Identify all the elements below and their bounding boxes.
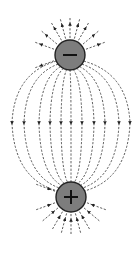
field-line <box>83 35 94 44</box>
connecting-field-lines <box>12 61 130 191</box>
field-line <box>35 42 41 44</box>
field-line <box>12 123 57 191</box>
field-line <box>84 208 89 212</box>
field-line <box>62 25 66 38</box>
field-line <box>99 42 105 44</box>
field-line <box>46 35 57 44</box>
field-line <box>94 31 99 35</box>
field-line <box>60 19 62 25</box>
field-line <box>50 123 64 184</box>
field-line <box>61 70 67 123</box>
field-line <box>60 212 63 217</box>
negative-charge <box>55 40 85 70</box>
field-line <box>93 205 106 210</box>
field-line <box>61 123 68 182</box>
field-line <box>77 219 81 233</box>
field-line <box>41 61 54 66</box>
field-line <box>24 64 58 123</box>
field-line <box>24 123 59 188</box>
field-line <box>49 203 55 205</box>
field-line <box>83 123 119 188</box>
field-line <box>41 44 54 49</box>
field-line <box>70 70 71 123</box>
field-line <box>35 66 41 68</box>
field-line <box>53 208 58 212</box>
field-line <box>87 203 93 205</box>
field-line <box>74 25 78 38</box>
field-line <box>86 23 89 28</box>
field-line <box>85 123 130 191</box>
field-line <box>83 217 90 229</box>
field-line <box>52 23 55 28</box>
field-line <box>53 217 60 229</box>
positive-charge <box>56 182 86 212</box>
field-line <box>78 19 80 25</box>
field-line <box>74 123 82 182</box>
electric-field-diagram: Electric field lines between two opposit… <box>0 0 139 255</box>
field-line <box>89 212 100 221</box>
field-line <box>79 28 86 40</box>
field-line <box>42 31 47 35</box>
field-line <box>80 212 83 217</box>
field-line <box>61 219 65 233</box>
field-line <box>86 44 99 49</box>
field-line <box>36 205 49 210</box>
field-line <box>39 67 61 123</box>
field-line <box>65 213 67 219</box>
field-line <box>12 61 56 123</box>
field-line <box>78 123 94 184</box>
field-line <box>55 28 62 40</box>
field-line <box>75 213 77 219</box>
field-line <box>73 70 82 123</box>
field-line <box>43 212 54 221</box>
